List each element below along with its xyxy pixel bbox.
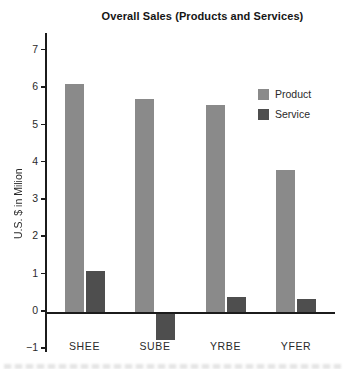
y-tick-label: 2 <box>10 230 38 241</box>
y-tick-mark <box>41 347 46 349</box>
bar-product-shee <box>65 84 84 312</box>
bar-product-yfer <box>276 170 295 312</box>
y-tick-label: 1 <box>10 268 38 279</box>
legend-label-service: Service <box>275 109 310 120</box>
y-tick-label: 6 <box>10 81 38 92</box>
legend-item-service: Service <box>258 109 338 120</box>
y-tick-mark <box>41 161 46 163</box>
product-swatch-icon <box>258 89 269 100</box>
bar-service-sube <box>156 314 175 340</box>
bar-product-yrbe <box>206 105 225 312</box>
y-tick-label: 3 <box>10 193 38 204</box>
x-axis-label-yrbe: YRBE <box>194 340 258 352</box>
y-tick-mark <box>41 86 46 88</box>
y-tick-mark <box>41 198 46 200</box>
bar-service-yrbe <box>227 297 246 312</box>
service-swatch-icon <box>258 109 269 120</box>
chart-canvas: Overall Sales (Products and Services) U.… <box>0 0 345 369</box>
cut-off-caption-artifact <box>4 364 341 369</box>
y-tick-mark <box>41 124 46 126</box>
legend-label-product: Product <box>275 89 311 100</box>
x-axis-label-shee: SHEE <box>53 340 117 352</box>
y-tick-label: 0 <box>10 305 38 316</box>
zero-baseline <box>45 312 335 314</box>
y-tick-mark <box>41 235 46 237</box>
y-tick-label: 7 <box>10 44 38 55</box>
legend-item-product: Product <box>258 89 338 100</box>
x-axis-label-yfer: YFER <box>264 340 328 352</box>
bar-service-shee <box>86 271 105 312</box>
bar-service-yfer <box>297 299 316 312</box>
bar-product-sube <box>135 99 154 312</box>
chart-title: Overall Sales (Products and Services) <box>62 10 343 22</box>
legend: Product Service <box>258 89 338 129</box>
y-axis-line <box>45 33 47 352</box>
y-tick-label: 4 <box>10 156 38 167</box>
y-tick-label: 5 <box>10 119 38 130</box>
y-tick-mark <box>41 49 46 51</box>
x-axis-label-sube: SUBE <box>123 340 187 352</box>
y-tick-mark <box>41 273 46 275</box>
y-tick-label: −1 <box>10 342 38 353</box>
